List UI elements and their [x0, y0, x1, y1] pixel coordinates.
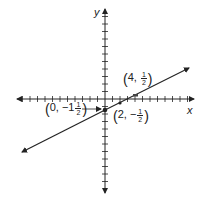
point-0-neg1-5 [103, 108, 108, 113]
point-label-2-neg0-5: (2, −12) [113, 108, 149, 123]
point-label-0-neg1-5: (0, −112) [45, 101, 87, 116]
axes [17, 9, 194, 193]
point-label-4-0-5: (4, 12) [123, 71, 153, 86]
coordinate-plane [0, 0, 206, 200]
point-2-neg0-5 [118, 101, 121, 104]
y-axis-label: y [94, 6, 100, 18]
graph-line [22, 110, 105, 152]
point-4-0-5 [133, 94, 138, 97]
x-axis-label: x [187, 104, 193, 116]
